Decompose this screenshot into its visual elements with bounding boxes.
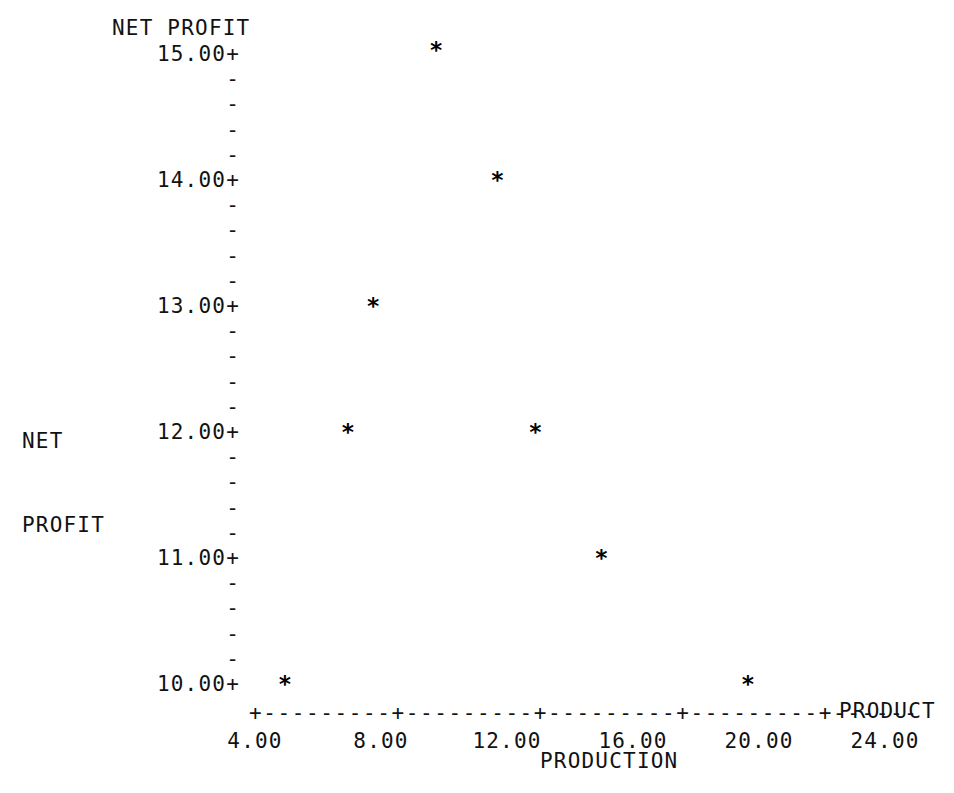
y-axis-minor-tick: -: [130, 498, 240, 519]
data-point: *: [595, 547, 609, 570]
x-axis-tick-16.00: 16.00: [593, 729, 673, 753]
data-point: *: [491, 169, 505, 192]
x-axis-tick-4.00: 4.00: [215, 729, 295, 753]
data-point: *: [741, 673, 755, 696]
page-title: NET PROFIT: [112, 18, 250, 39]
y-axis-minor-tick: -: [130, 624, 240, 645]
ascii-scatter-plot: NET PROFIT NET PROFIT PRODUCTION PRODUCT…: [0, 0, 954, 793]
data-point: *: [429, 39, 443, 62]
x-axis-tick-20.00: 20.00: [719, 729, 799, 753]
y-axis-minor-tick: -: [130, 220, 240, 241]
y-axis-minor-tick: -: [130, 195, 240, 216]
y-axis-minor-tick: -: [130, 69, 240, 90]
y-axis-minor-tick: -: [130, 397, 240, 418]
data-point: *: [341, 421, 355, 444]
y-axis-minor-tick: -: [130, 271, 240, 292]
x-axis-label: PRODUCTION: [540, 751, 678, 772]
y-axis-tick-13.00: 13.00+: [130, 296, 240, 317]
y-axis-minor-tick: -: [130, 447, 240, 468]
x-axis-tick-12.00: 12.00: [467, 729, 547, 753]
y-axis-tick-14.00: 14.00+: [130, 170, 240, 191]
data-point: *: [366, 295, 380, 318]
data-point: *: [278, 673, 292, 696]
x-axis-tick-24.00: 24.00: [845, 729, 925, 753]
y-axis-minor-tick: -: [130, 120, 240, 141]
x-axis-line: +---------+---------+---------+---------…: [249, 701, 918, 725]
y-axis-label: NET PROFIT: [22, 371, 105, 595]
y-axis-minor-tick: -: [130, 573, 240, 594]
y-axis-minor-tick: -: [130, 94, 240, 115]
y-axis-minor-tick: -: [130, 246, 240, 267]
y-axis-minor-tick: -: [130, 523, 240, 544]
y-axis-label-line-2: PROFIT: [22, 511, 105, 539]
y-axis-minor-tick: -: [130, 598, 240, 619]
y-axis-minor-tick: -: [130, 145, 240, 166]
x-axis-tick-8.00: 8.00: [341, 729, 421, 753]
y-axis-minor-tick: -: [130, 372, 240, 393]
y-axis-minor-tick: -: [130, 346, 240, 367]
y-axis-tick-15.00: 15.00+: [130, 44, 240, 65]
y-axis-tick-11.00: 11.00+: [130, 548, 240, 569]
y-axis-tick-10.00: 10.00+: [130, 674, 240, 695]
y-axis-minor-tick: -: [130, 321, 240, 342]
y-axis-minor-tick: -: [130, 472, 240, 493]
y-axis-label-line-1: NET: [22, 427, 105, 455]
y-axis-minor-tick: -: [130, 649, 240, 670]
y-axis-tick-12.00: 12.00+: [130, 422, 240, 443]
data-point: *: [528, 421, 542, 444]
